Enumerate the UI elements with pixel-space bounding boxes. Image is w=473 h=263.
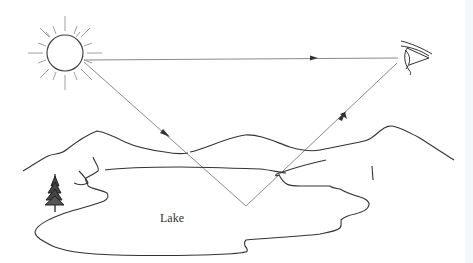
diagram-canvas: Lake — [0, 0, 473, 263]
edge-strip — [465, 0, 473, 263]
eye-icon — [401, 41, 432, 75]
reflected-ray — [246, 63, 397, 206]
lake — [35, 157, 373, 256]
lake-label: Lake — [160, 211, 184, 225]
diagram-svg: Lake — [0, 0, 473, 263]
tree-icon — [45, 174, 64, 212]
sun-icon — [28, 16, 102, 90]
mountains — [23, 126, 454, 171]
direct-ray — [84, 56, 398, 61]
